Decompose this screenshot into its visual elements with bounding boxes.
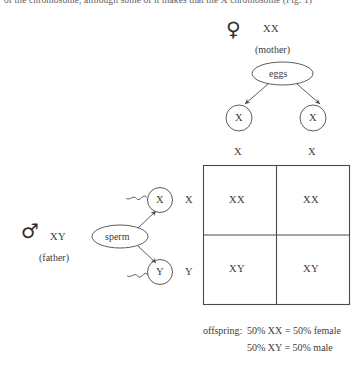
egg-gamete-label-1: X [235,112,243,123]
sperm-tail-x-icon [127,196,147,200]
sperm-gamete-label-x: X [156,194,164,205]
mother-genotype: XX [263,23,279,34]
father-caption: (father) [39,252,69,263]
punnett-row-header-1: X [185,194,193,205]
punnett-diagram [0,0,363,369]
egg-arrow-right [297,84,320,104]
punnett-column-header-1: X [234,146,242,157]
punnett-cell-r2c1: XY [229,263,245,274]
sperm-gamete-label-y: Y [156,266,164,277]
eggs-bubble-label: eggs [269,68,287,79]
female-symbol: ♀ [226,19,241,39]
sperm-tail-y-icon [128,273,148,277]
offspring-ratio-female: 50% XX = 50% female [247,325,341,336]
egg-arrow-left [245,84,268,104]
father-genotype: XY [50,231,66,242]
punnett-column-header-2: X [308,146,316,157]
sperm-bubble-label: sperm [105,231,129,242]
sperm-arrow-upper [138,211,156,228]
offspring-ratio-male: 50% XY = 50% male [247,342,333,353]
sperm-arrow-lower [138,246,156,263]
punnett-cell-r2c2: XY [303,263,319,274]
punnett-cell-r1c1: XX [229,194,245,205]
egg-gamete-label-2: X [309,112,317,123]
male-symbol: ♂ [21,221,39,241]
punnett-cell-r1c2: XX [303,194,319,205]
offspring-label: offspring: [203,325,242,336]
punnett-row-header-2: Y [185,266,193,277]
mother-caption: (mother) [255,44,290,55]
